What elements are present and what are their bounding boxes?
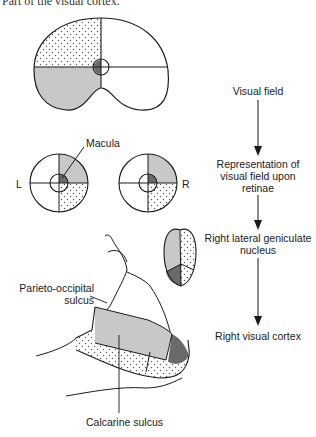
parieto-occipital-line1: Parieto-occipital	[14, 282, 94, 294]
calcarine-label: Calcarine sulcus	[86, 416, 163, 428]
lateral-geniculate-nucleus	[164, 229, 196, 286]
flow-visual-cortex: Right visual cortex	[203, 330, 313, 342]
flow-visual-field: Visual field	[203, 85, 313, 97]
left-retina	[30, 147, 88, 212]
parieto-occipital-line2: sulcus	[14, 294, 94, 306]
macula-label: Macula	[86, 137, 120, 149]
visual-pathway-diagram	[0, 0, 316, 437]
flow-arrows	[254, 100, 262, 326]
flow-retinae: Representation of visual field upon reti…	[203, 158, 313, 194]
flow-lgn: Right lateral geniculate nucleus	[203, 232, 313, 256]
right-eye-label: R	[182, 178, 190, 190]
right-retina	[119, 154, 177, 212]
parieto-occipital-label: Parieto-occipital sulcus	[14, 282, 94, 306]
visual-field-figure	[30, 15, 168, 117]
left-eye-label: L	[16, 178, 22, 190]
